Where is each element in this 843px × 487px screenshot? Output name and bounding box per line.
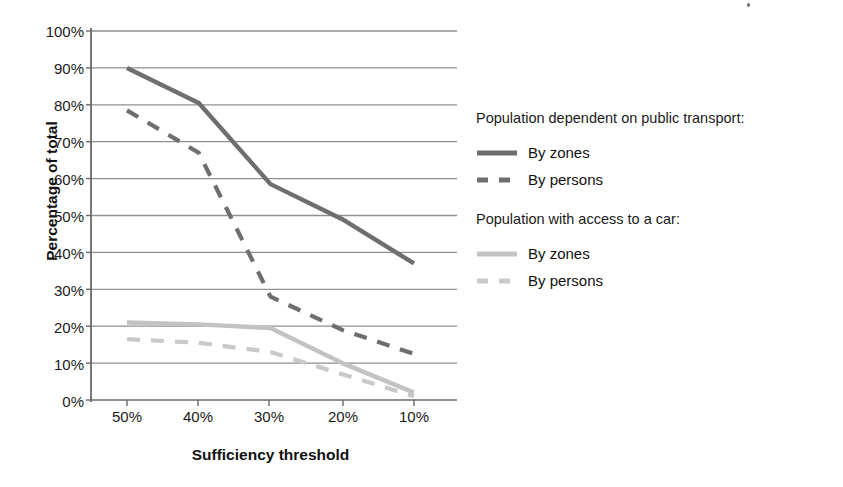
legend-group-car-access: Population with access to a car: By zone… [476,211,836,294]
data-series-layer [127,68,414,396]
data-series-line [127,339,414,396]
legend-swatch-dashed-dark-icon [476,173,518,187]
chart-legend: Population dependent on public transport… [476,110,836,294]
legend-item-car-persons[interactable]: By persons [476,267,836,294]
legend-heading: Population dependent on public transport… [476,110,836,126]
chart-figure: Percentage of total 100% 90% 80% 70% 60%… [0,0,843,487]
legend-swatch-solid-light-icon [476,247,518,261]
legend-item-label: By persons [528,272,603,289]
data-series-line [127,110,414,354]
x-tick-marks [127,400,414,406]
data-series-line [127,68,414,264]
legend-item-label: By persons [528,171,603,188]
legend-swatch-dashed-light-icon [476,274,518,288]
legend-group-public-transport: Population dependent on public transport… [476,110,836,193]
scan-artifact-speck [747,3,750,7]
legend-item-car-zones[interactable]: By zones [476,240,836,267]
legend-item-transport-persons[interactable]: By persons [476,166,836,193]
legend-heading: Population with access to a car: [476,211,836,227]
legend-swatch-solid-dark-icon [476,146,518,160]
legend-item-label: By zones [528,144,590,161]
gridlines [91,31,457,363]
legend-item-label: By zones [528,245,590,262]
legend-item-transport-zones[interactable]: By zones [476,139,836,166]
